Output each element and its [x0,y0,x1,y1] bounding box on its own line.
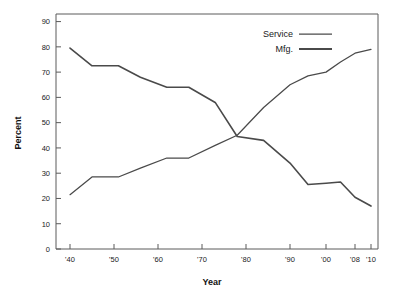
y-tick-label: 10 [42,220,50,229]
series-line-service [70,49,371,194]
chart-legend: Service Mfg. [263,29,332,54]
x-axis-ticks: '40'50'60'70'80'90'00'08'10 [65,244,376,264]
y-tick-label: 60 [42,93,50,102]
x-tick-label: '50 [109,255,119,264]
y-axis-title: Percent [13,116,23,149]
x-tick-label: '70 [197,255,207,264]
x-tick-label: '08 [350,255,360,264]
y-tick-label: 40 [42,144,50,153]
y-tick-label: 80 [42,43,50,52]
x-tick-label: '80 [241,255,251,264]
x-tick-label: '00 [321,255,331,264]
x-tick-label: '60 [153,255,163,264]
y-tick-label: 20 [42,194,50,203]
x-tick-label: '90 [285,255,295,264]
y-tick-label: 90 [42,17,50,26]
x-axis-title: Year [202,277,222,287]
line-chart-svg: 0102030405060708090 '40'50'60'70'80'90'0… [0,0,400,295]
legend-label-service: Service [263,29,293,39]
y-tick-label: 0 [46,245,50,254]
y-axis-ticks: 0102030405060708090 [42,17,61,253]
x-tick-label: '10 [366,255,376,264]
y-tick-label: 50 [42,118,50,127]
y-tick-label: 30 [42,169,50,178]
legend-label-mfg: Mfg. [275,44,293,54]
x-tick-label: '40 [65,255,75,264]
chart-figure: 0102030405060708090 '40'50'60'70'80'90'0… [0,0,400,295]
y-tick-label: 70 [42,68,50,77]
